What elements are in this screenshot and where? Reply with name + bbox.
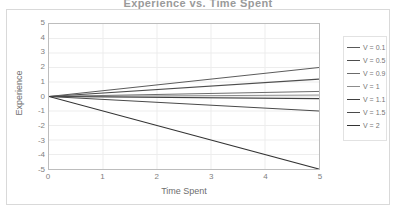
y-axis-tick: -1 xyxy=(38,107,45,115)
data-lines xyxy=(49,68,319,170)
legend-item[interactable]: V = 1.5 xyxy=(347,106,384,119)
legend-item[interactable]: V = 0.9 xyxy=(347,67,384,80)
y-axis-tick: 1 xyxy=(41,78,45,86)
chart-frame: Experience vs. Time Spent 543210-1-2-3-4… xyxy=(6,9,390,205)
legend-label: V = 1.5 xyxy=(363,109,385,116)
legend-label: V = 2 xyxy=(363,122,380,129)
legend-label: V = 1.1 xyxy=(363,96,385,103)
legend-item[interactable]: V = 1.1 xyxy=(347,93,384,106)
legend-line-swatch xyxy=(347,112,360,113)
y-axis-tick-labels: 543210-1-2-3-4-5 xyxy=(21,23,45,170)
chart-title: Experience vs. Time Spent xyxy=(7,0,389,9)
x-axis-tick: 1 xyxy=(100,173,104,181)
y-axis-tick: 4 xyxy=(41,34,45,42)
legend-item[interactable]: V = 0.5 xyxy=(347,54,384,67)
legend-item[interactable]: V = 2 xyxy=(347,119,384,132)
x-axis-tick-labels: 012345 xyxy=(48,173,320,185)
y-axis-tick: 2 xyxy=(41,63,45,71)
y-axis-tick: 0 xyxy=(41,93,45,101)
legend-line-swatch xyxy=(347,47,360,48)
y-axis-tick: -2 xyxy=(38,122,45,130)
y-axis-tick: 5 xyxy=(41,19,45,27)
x-axis-title: Time Spent xyxy=(48,186,320,196)
x-axis-tick: 2 xyxy=(155,173,159,181)
legend-line-swatch xyxy=(347,86,360,87)
y-axis-tick: -3 xyxy=(38,137,45,145)
legend-line-swatch xyxy=(347,125,360,126)
legend-line-swatch xyxy=(347,99,360,100)
x-axis-tick: 3 xyxy=(209,173,213,181)
y-axis-tick: -5 xyxy=(38,166,45,174)
chart-screenshot: Experience vs. Time Spent 543210-1-2-3-4… xyxy=(0,0,398,215)
y-axis-tick: 3 xyxy=(41,48,45,56)
legend-label: V = 1 xyxy=(363,83,380,90)
series-lines xyxy=(49,24,319,169)
legend-label: V = 0.1 xyxy=(363,44,385,51)
x-axis-tick: 4 xyxy=(263,173,267,181)
plot-area xyxy=(48,23,320,170)
legend-item[interactable]: V = 0.1 xyxy=(347,41,384,54)
legend-line-swatch xyxy=(347,73,360,74)
legend-label: V = 0.5 xyxy=(363,57,385,64)
y-axis-title: Experience xyxy=(14,53,24,133)
legend-label: V = 0.9 xyxy=(363,70,385,77)
chart-legend: V = 0.1V = 0.5V = 0.9V = 1V = 1.1V = 1.5… xyxy=(343,36,387,141)
x-axis-tick: 5 xyxy=(318,173,322,181)
x-axis-tick: 0 xyxy=(46,173,50,181)
legend-line-swatch xyxy=(347,60,360,61)
legend-item[interactable]: V = 1 xyxy=(347,80,384,93)
y-axis-tick: -4 xyxy=(38,151,45,159)
series-line xyxy=(49,97,319,170)
